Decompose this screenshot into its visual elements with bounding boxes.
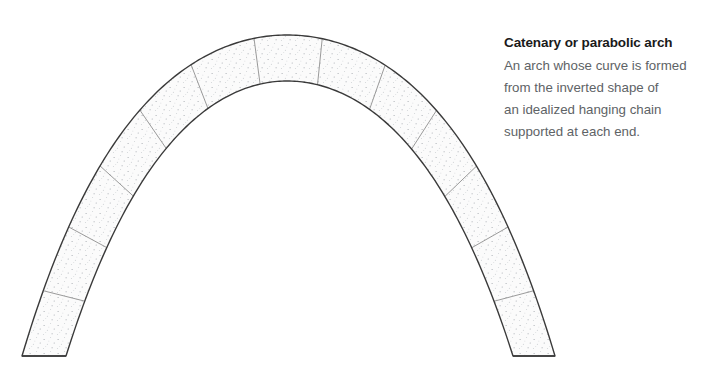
caption-body-line-1: An arch whose curve is formed (504, 55, 700, 77)
caption-body-line-4: supported at each end. (504, 121, 700, 143)
caption: Catenary or parabolic arch An arch whose… (504, 34, 700, 143)
caption-body-line-3: an idealized hanging chain (504, 99, 700, 121)
arch-figure: Catenary or parabolic arch An arch whose… (0, 0, 708, 374)
arch-body (22, 35, 555, 356)
caption-body: An arch whose curve is formed from the i… (504, 55, 700, 143)
arch-stipple-fill (22, 35, 555, 356)
caption-title: Catenary or parabolic arch (504, 34, 700, 52)
caption-body-line-2: from the inverted shape of (504, 77, 700, 99)
